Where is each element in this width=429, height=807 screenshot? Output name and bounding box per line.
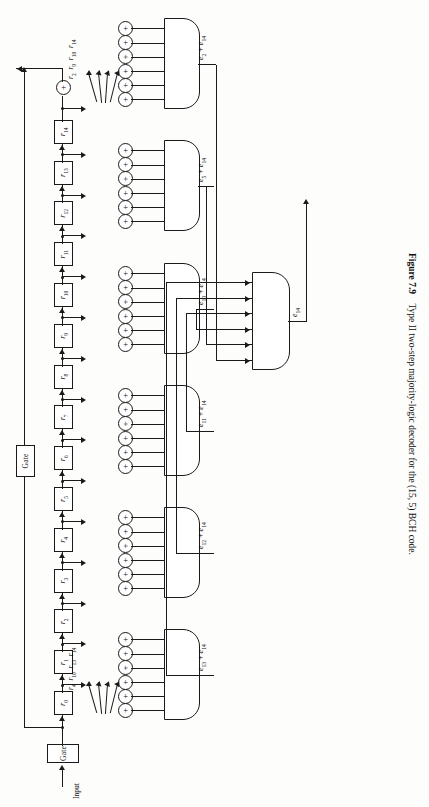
tap-arrow: [81, 601, 86, 607]
mg-e2-adder-wire: [131, 71, 164, 72]
feedback-top-run: [24, 69, 25, 445]
mg-e11-adder-wire: [131, 410, 164, 411]
tap-arrow: [81, 356, 86, 362]
mg-e5-adder-wire: [131, 207, 164, 208]
mg-e5: [164, 141, 200, 232]
route-h-1: [206, 187, 207, 345]
r14-tap-wire: [62, 108, 82, 109]
tap-wire: [62, 562, 82, 563]
register-r12: r12: [54, 201, 73, 225]
feedback-down: [24, 727, 62, 728]
decoder-diagram: InputGater0r1r2r3r4r5r6r7r8r9r10r11r12r1…: [0, 0, 429, 807]
tap-arrow: [81, 274, 86, 280]
figure-page: InputGater0r1r2r3r4r5r6r7r8r9r10r11r12r1…: [0, 0, 429, 807]
reg-link-arrow: [59, 594, 65, 599]
reg-link-arrow: [59, 634, 65, 639]
mg-e10-adder-wire: [131, 345, 164, 346]
route-v-1: [206, 186, 214, 187]
tap-wire: [62, 317, 82, 318]
tap-wire: [62, 195, 82, 196]
reg-link-arrow: [59, 430, 65, 435]
mg-e13-adder-wire: [131, 640, 164, 641]
tap-wire: [62, 603, 82, 604]
input-arrow: [59, 765, 65, 770]
input-gate-box[interactable]: Gate: [47, 744, 79, 763]
tap-wire: [62, 439, 82, 440]
route-h-5: [166, 283, 167, 676]
mg-e13-adder-wire: [131, 711, 164, 712]
register-r6: r6: [54, 446, 73, 470]
tap-wire: [62, 480, 82, 481]
tap-arrow: [81, 437, 86, 443]
mg-e11-adder-wire: [131, 396, 164, 397]
mg-e2-output-wire: [198, 64, 214, 65]
final-gate-input-arrow-2: [245, 327, 250, 333]
final-feedback-run: [306, 202, 307, 322]
figure-caption-text: Type II two-step majority-logic decoder …: [407, 303, 417, 555]
mg-e10: [164, 264, 200, 355]
reg-link-arrow: [59, 186, 65, 191]
tap-wire: [62, 399, 82, 400]
register-r3: r3: [54, 569, 73, 593]
mg-e13-adder-wire: [131, 696, 164, 697]
mg-e12-output-label: e12 + e14: [196, 522, 207, 549]
tap-arrow: [81, 478, 86, 484]
tap-arrow: [81, 315, 86, 321]
mg-e13-adder-wire: [131, 668, 164, 669]
tap-wire: [62, 521, 82, 522]
register-r8: r8: [54, 365, 73, 389]
mg-e2-adder-wire: [131, 100, 164, 101]
final-output-label: e14: [290, 308, 301, 317]
reg-link-arrow: [59, 145, 65, 150]
route-v-2: [196, 309, 214, 310]
final-gate-input-arrow-5: [245, 280, 250, 286]
figure-caption: Figure 7.9 Type II two-step majority-log…: [399, 0, 425, 807]
route-h-3: [186, 314, 187, 432]
feedback-gate-box[interactable]: Gate: [16, 445, 35, 477]
tap-arrow: [81, 233, 86, 239]
tap-arrow: [81, 152, 86, 158]
feedback-arrow-h: [21, 67, 27, 72]
route-drop-1: [206, 344, 238, 345]
register-r13: r13: [54, 161, 73, 185]
mg-e5-output-label: e5 + e14: [196, 158, 207, 182]
final-feedback-arrow: [303, 199, 309, 204]
route-drop-4: [176, 298, 238, 299]
route-drop-5: [166, 282, 238, 283]
top-feed-feed-arrow-0: [86, 681, 92, 686]
reg-link-arrow: [59, 349, 65, 354]
mg-e12-adder-wire: [131, 532, 164, 533]
register-r14: r14: [54, 120, 73, 144]
mg-e10-adder-wire: [131, 330, 164, 331]
mg-final: [252, 272, 290, 370]
mg-e5-adder-wire: [131, 222, 164, 223]
mg-e2-adder-wire: [131, 43, 164, 44]
mg-e11-adder-wire: [131, 452, 164, 453]
gate-to-r0-arrow: [59, 716, 65, 721]
reg-link-arrow: [59, 308, 65, 313]
mg-e12-adder-wire: [131, 546, 164, 547]
top-feed-labels: r4 r10 r13 r14: [66, 648, 77, 690]
reg-link-arrow: [59, 553, 65, 558]
mg-e2-output-label: e2 + e14: [196, 36, 207, 60]
mg-e10-adder-wire: [131, 274, 164, 275]
figure-number: Figure 7.9: [407, 253, 417, 294]
mg-e11-adder-wire: [131, 438, 164, 439]
tap-arrow: [81, 193, 86, 199]
feedback-return-run: [24, 477, 25, 728]
final-output-wire: [288, 321, 306, 322]
route-h-0: [216, 65, 217, 361]
register-r4: r4: [54, 528, 73, 552]
mg-e10-adder-wire: [131, 302, 164, 303]
mg-e2-adder-wire: [131, 85, 164, 86]
tap-wire: [62, 276, 82, 277]
final-gate-input-arrow-3: [245, 311, 250, 317]
register-r7: r7: [54, 405, 73, 429]
mg-e2: [164, 19, 200, 110]
bottom-feed-labels: r2 r9 r10 r14: [66, 40, 77, 79]
mg-e2-adder-wire: [131, 29, 164, 30]
final-gate-input-arrow-4: [245, 296, 250, 302]
route-drop-3: [186, 313, 238, 314]
register-r9: r9: [54, 324, 73, 348]
route-v-4: [176, 553, 214, 554]
